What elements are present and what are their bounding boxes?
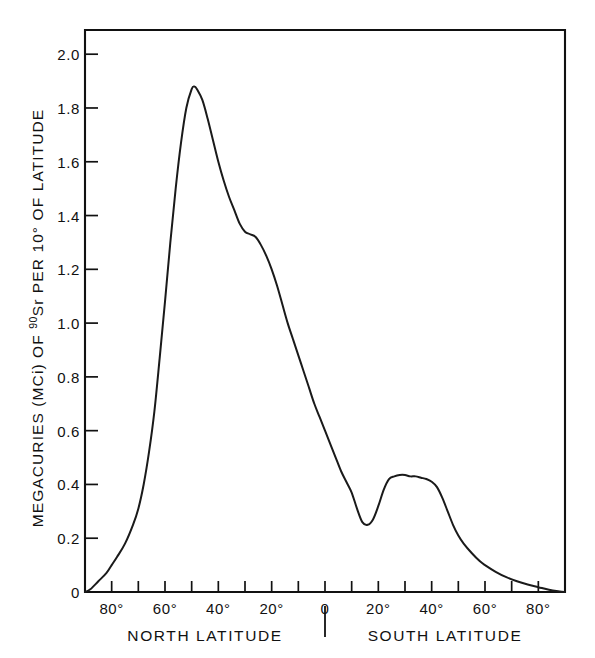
y-axis-tick-label: 0: [34, 584, 80, 601]
x-axis-tick-label: 60°: [153, 600, 177, 617]
y-axis-tick-label: 0.4: [34, 476, 80, 493]
x-axis-tick-label: 20°: [259, 600, 283, 617]
x-axis-tick-label: 0: [321, 600, 330, 617]
plot-area: [0, 0, 595, 658]
y-axis-tick-label: 0.2: [34, 530, 80, 547]
x-axis-tick-labels: 80°60°40°20°020°40°60°80°: [0, 600, 595, 622]
y-axis-tick-label: 1.0: [34, 315, 80, 332]
y-axis-tick-label: 1.2: [34, 261, 80, 278]
y-axis-tick-label: 2.0: [34, 46, 80, 63]
plot-frame-box: [85, 30, 565, 592]
y-axis-tick-label: 1.8: [34, 99, 80, 116]
y-axis-tick-label: 0.8: [34, 368, 80, 385]
data-curve-sr90: [85, 86, 565, 592]
x-axis-label-north: NORTH LATITUDE: [127, 627, 282, 645]
plot-frame: [85, 30, 565, 592]
x-axis-ticks: [112, 581, 539, 592]
x-axis-tick-label: 20°: [366, 600, 390, 617]
chart-figure: MEGACURIES (MCi) OF 90Sr PER 10° OF LATI…: [0, 0, 595, 658]
x-axis-tick-label: 80°: [99, 600, 123, 617]
x-axis-tick-label: 60°: [473, 600, 497, 617]
y-axis-tick-label: 1.6: [34, 153, 80, 170]
x-axis-tick-label: 80°: [526, 600, 550, 617]
y-axis-tick-label: 0.6: [34, 422, 80, 439]
y-axis-tick-labels: 00.20.40.60.81.01.21.41.61.82.0: [28, 0, 80, 658]
y-axis-tick-label: 1.4: [34, 207, 80, 224]
y-axis-ticks: [85, 54, 98, 592]
x-axis-tick-label: 40°: [419, 600, 443, 617]
x-axis-tick-label: 40°: [206, 600, 230, 617]
x-axis-hemisphere-labels: NORTH LATITUDE SOUTH LATITUDE: [0, 627, 595, 649]
x-axis-label-south: SOUTH LATITUDE: [368, 627, 523, 645]
